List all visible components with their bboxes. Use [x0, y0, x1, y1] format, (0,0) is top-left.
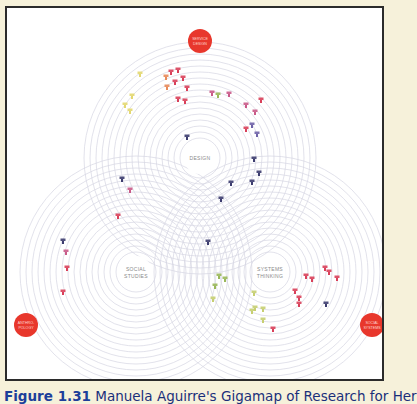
marker-stem: [224, 279, 226, 282]
marker-stem: [253, 293, 255, 296]
research-marker: [65, 266, 70, 272]
marker-head: [211, 297, 216, 300]
marker-stem: [177, 70, 179, 73]
marker-head: [173, 80, 178, 83]
marker-head: [64, 250, 69, 253]
marker-stem: [253, 159, 255, 162]
research-marker: [293, 289, 298, 295]
marker-head: [324, 302, 329, 305]
node-label-anthropology: POLOGY: [18, 326, 34, 330]
marker-stem: [124, 105, 126, 108]
diagram-frame: DESIGNSOCIALSTUDIESSYSTEMSTHINKINGSERVIC…: [5, 6, 384, 381]
research-marker: [206, 240, 211, 246]
marker-stem: [262, 320, 264, 323]
research-marker: [327, 270, 332, 276]
marker-head: [253, 306, 258, 309]
marker-stem: [230, 183, 232, 186]
marker-head: [310, 277, 315, 280]
research-marker: [210, 91, 215, 97]
marker-stem: [258, 173, 260, 176]
marker-head: [229, 181, 234, 184]
marker-stem: [212, 299, 214, 302]
circle-label-social: SOCIAL: [126, 266, 146, 272]
marker-head: [210, 91, 215, 94]
marker-head: [297, 302, 302, 305]
research-marker: [259, 98, 264, 104]
marker-stem: [186, 137, 188, 140]
marker-stem: [245, 129, 247, 132]
research-marker: [227, 92, 232, 98]
marker-head: [176, 97, 181, 100]
marker-head: [116, 214, 121, 217]
marker-head: [61, 239, 66, 242]
marker-head: [244, 127, 249, 130]
marker-stem: [324, 268, 326, 271]
research-marker: [164, 75, 169, 81]
marker-head: [181, 76, 186, 79]
marker-stem: [311, 279, 313, 282]
research-marker: [185, 86, 190, 92]
circle-label-systems: SYSTEMS: [257, 266, 283, 272]
node-label-anthropology: ANTHRO-: [18, 321, 35, 325]
research-marker: [169, 70, 174, 76]
marker-stem: [66, 268, 68, 271]
marker-stem: [139, 74, 141, 77]
marker-head: [128, 109, 133, 112]
gigamap-diagram: DESIGNSOCIALSTUDIESSYSTEMSTHINKINGSERVIC…: [7, 8, 382, 379]
marker-stem: [328, 272, 330, 275]
marker-stem: [251, 125, 253, 128]
marker-stem: [305, 276, 307, 279]
figure-number: Figure 1.31: [4, 388, 91, 404]
research-marker: [165, 85, 170, 91]
marker-head: [128, 188, 133, 191]
marker-stem: [186, 88, 188, 91]
marker-head: [297, 296, 302, 299]
research-marker: [335, 276, 340, 282]
marker-head: [327, 270, 332, 273]
marker-stem: [117, 216, 119, 219]
marker-stem: [260, 100, 262, 103]
marker-head: [185, 135, 190, 138]
marker-stem: [170, 72, 172, 75]
marker-head: [165, 85, 170, 88]
marker-stem: [217, 95, 219, 98]
marker-head: [219, 197, 224, 200]
marker-stem: [165, 77, 167, 80]
circle-label-social: STUDIES: [124, 273, 148, 279]
marker-head: [213, 284, 218, 287]
research-marker: [253, 110, 258, 116]
marker-head: [323, 266, 328, 269]
marker-head: [293, 289, 298, 292]
marker-head: [261, 318, 266, 321]
node-label-social-systems: SOCIAL: [365, 321, 378, 325]
marker-head: [169, 70, 174, 73]
research-marker: [324, 302, 329, 308]
marker-head: [261, 307, 266, 310]
marker-stem: [166, 87, 168, 90]
marker-stem: [131, 96, 133, 99]
marker-head: [123, 103, 128, 106]
research-marker: [261, 318, 266, 324]
figure-caption: Figure 1.31 Manuela Aguirre's Gigamap of…: [4, 388, 417, 404]
marker-head: [216, 93, 221, 96]
research-marker: [183, 99, 188, 105]
node-label-social-systems: SYSTEMS: [363, 326, 381, 330]
marker-head: [271, 327, 276, 330]
marker-head: [255, 132, 260, 135]
research-marker: [217, 274, 222, 280]
research-marker: [271, 327, 276, 333]
research-marker: [252, 291, 257, 297]
node-label-service-design: DESIGN: [193, 42, 207, 46]
marker-stem: [272, 329, 274, 332]
marker-head: [250, 123, 255, 126]
marker-head: [250, 309, 255, 312]
research-marker: [128, 109, 133, 115]
marker-stem: [174, 82, 176, 85]
research-marker: [255, 132, 260, 138]
node-label-service-design: SERVICE: [192, 37, 208, 41]
marker-head: [252, 157, 257, 160]
marker-head: [164, 75, 169, 78]
marker-stem: [211, 93, 213, 96]
marker-head: [65, 266, 70, 269]
research-marker: [176, 68, 181, 74]
